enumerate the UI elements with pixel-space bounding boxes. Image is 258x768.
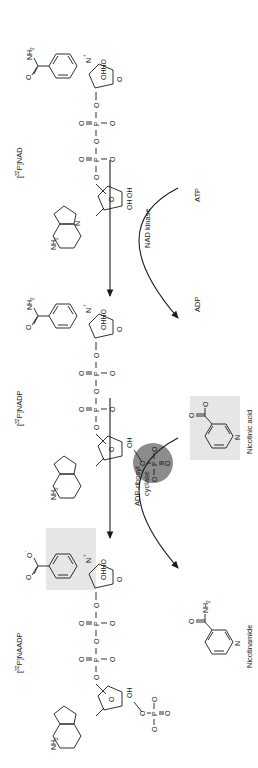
enzyme-label-cyclase-line2: cyclase xyxy=(142,471,151,496)
svg-text:O: O xyxy=(108,696,115,702)
svg-text:O: O xyxy=(108,196,115,202)
label-nicotinic-acid: Nicotinic acid xyxy=(245,410,254,454)
label-nicotinamide: Nicotinamide xyxy=(245,625,254,668)
svg-text:O: O xyxy=(93,638,100,644)
svg-text:NH: NH xyxy=(202,603,209,613)
molecule-nadp: O NH 2 N + OHHO O O P O O O P O O xyxy=(25,297,173,500)
svg-text:O: O xyxy=(164,460,171,466)
svg-text:O: O xyxy=(25,574,32,580)
svg-text:O: O xyxy=(108,446,115,452)
svg-text:O: O xyxy=(78,120,85,126)
svg-text:P: P xyxy=(93,407,100,412)
svg-text:N: N xyxy=(85,558,92,563)
svg-text:OHHO: OHHO xyxy=(100,58,107,80)
atom-o: O xyxy=(25,74,32,80)
svg-text:O: O xyxy=(93,138,100,144)
svg-text:O: O xyxy=(116,576,123,582)
nad-naadp-reaction-diagram: [32P]NAD [32P]NADP [32P]NAADP xyxy=(0,0,258,768)
svg-text:O: O xyxy=(109,620,116,626)
enzyme-label-nad-kinase: NAD kinase xyxy=(143,208,152,248)
molecule-nicotinamide: O NH 2 N xyxy=(188,600,241,654)
curved-arrow-atp-adp xyxy=(139,188,178,318)
svg-text:O: O xyxy=(188,618,195,624)
svg-text:O: O xyxy=(109,120,116,126)
svg-text:O: O xyxy=(109,370,116,376)
svg-text:O: O xyxy=(93,352,100,358)
label-nad: [32P]NAD xyxy=(14,147,24,178)
label-naadp: [32P]NAADP xyxy=(14,632,24,673)
label-adp: ADP xyxy=(193,297,202,312)
reaction-nad-kinase: NAD kinase ATP ADP xyxy=(110,160,202,318)
svg-text:P: P xyxy=(93,121,100,126)
svg-text:P: P xyxy=(93,157,100,162)
svg-text:+: + xyxy=(82,54,87,57)
svg-text:O: O xyxy=(78,656,85,662)
atom-n-plus: N xyxy=(85,58,92,63)
svg-text:NH: NH xyxy=(50,490,57,500)
nicotinic-acid-box xyxy=(190,396,240,460)
svg-text:N: N xyxy=(74,221,81,226)
svg-text:N: N xyxy=(234,435,241,440)
svg-text:P: P xyxy=(93,621,100,626)
molecule-naadp: O O - N + OHHO O O P O O O P O O xyxy=(23,528,171,750)
svg-text:O: O xyxy=(78,620,85,626)
svg-text:OH: OH xyxy=(126,688,133,699)
svg-text:O: O xyxy=(93,602,100,608)
svg-text:O: O xyxy=(93,102,100,108)
svg-text:NH: NH xyxy=(50,740,57,750)
label-atp: ATP xyxy=(193,188,202,202)
svg-text:O: O xyxy=(93,674,100,680)
svg-text:OH: OH xyxy=(126,188,133,199)
svg-text:NH: NH xyxy=(50,240,57,250)
svg-text:P: P xyxy=(151,461,158,466)
svg-text:O: O xyxy=(93,424,100,430)
atom-nh2: NH xyxy=(26,50,33,60)
svg-text:N: N xyxy=(85,308,92,313)
svg-text:O: O xyxy=(109,656,116,662)
svg-text:OHHO: OHHO xyxy=(100,308,107,330)
svg-text:2: 2 xyxy=(54,237,59,240)
svg-text:O: O xyxy=(25,324,32,330)
svg-text:-: - xyxy=(23,550,28,552)
svg-text:O: O xyxy=(151,696,158,702)
svg-text:O: O xyxy=(202,401,209,407)
svg-text:P: P xyxy=(93,371,100,376)
svg-text:O: O xyxy=(139,460,146,466)
svg-text:OHHO: OHHO xyxy=(100,558,107,580)
enzyme-label-cyclase-line1: ADP-ribosyl xyxy=(133,466,142,506)
svg-text:+: + xyxy=(82,554,87,557)
svg-text:OH: OH xyxy=(126,438,133,449)
svg-text:O: O xyxy=(78,406,85,412)
svg-text:O: O xyxy=(78,156,85,162)
reaction-adp-ribosyl-cyclase: ADP-ribosyl cyclase O O N Nicotinic acid xyxy=(110,396,254,668)
svg-text:+: + xyxy=(82,304,87,307)
svg-text:2: 2 xyxy=(30,297,35,300)
svg-text:P: P xyxy=(93,657,100,662)
svg-text:2: 2 xyxy=(54,487,59,490)
svg-text:O: O xyxy=(93,388,100,394)
svg-text:O: O xyxy=(151,726,158,732)
svg-text:O: O xyxy=(188,412,195,418)
svg-text:O: O xyxy=(78,370,85,376)
svg-text:O: O xyxy=(151,446,158,452)
svg-text:O: O xyxy=(151,476,158,482)
svg-text:2: 2 xyxy=(30,47,35,50)
svg-text:N: N xyxy=(234,641,241,646)
molecule-nad: O NH 2 N + OHHO O O P O O O P O xyxy=(25,47,133,250)
svg-text:2: 2 xyxy=(206,600,211,603)
svg-text:OH: OH xyxy=(126,200,133,211)
svg-text:2: 2 xyxy=(54,737,59,740)
svg-text:O: O xyxy=(164,710,171,716)
svg-text:O: O xyxy=(139,710,146,716)
svg-text:O: O xyxy=(93,174,100,180)
svg-text:NH: NH xyxy=(26,300,33,310)
svg-text:P: P xyxy=(151,711,158,716)
svg-text:O: O xyxy=(116,326,123,332)
label-nadp: [32P]NADP xyxy=(14,390,24,426)
svg-text:O: O xyxy=(116,76,123,82)
